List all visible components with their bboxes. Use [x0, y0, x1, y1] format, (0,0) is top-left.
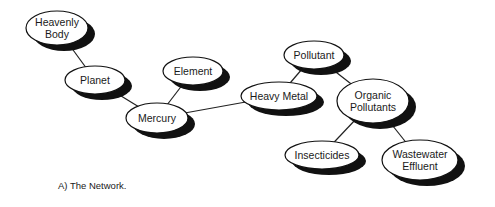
- node-mercury: Mercury: [126, 103, 195, 139]
- node-label: Planet: [80, 74, 110, 86]
- node-label: Mercury: [138, 112, 177, 124]
- node-pollutant: Pollutant: [284, 41, 351, 75]
- figure-caption: A) The Network.: [58, 180, 126, 191]
- node-heavy-metal: Heavy Metal: [241, 82, 324, 116]
- node-organic-pollutants: OrganicPollutants: [337, 79, 416, 129]
- node-label: Heavy Metal: [250, 90, 308, 102]
- node-label: Element: [174, 65, 213, 77]
- node-label: Pollutant: [294, 49, 335, 61]
- node-insecticides: Insecticides: [285, 141, 366, 175]
- node-element: Element: [163, 57, 230, 91]
- node-label: Organic: [355, 89, 392, 101]
- node-label: Heavenly: [35, 16, 80, 28]
- node-label: Wastewater: [392, 148, 448, 160]
- node-wastewater-effluent: WastewaterEffluent: [382, 140, 465, 186]
- node-label: Body: [45, 28, 70, 40]
- node-planet: Planet: [65, 66, 132, 100]
- node-label: Pollutants: [350, 101, 396, 113]
- node-label: Effluent: [402, 160, 437, 172]
- network-diagram: HeavenlyBodyPlanetMercuryElementHeavy Me…: [0, 0, 495, 207]
- node-heavenly-body: HeavenlyBody: [26, 11, 95, 51]
- nodes: HeavenlyBodyPlanetMercuryElementHeavy Me…: [26, 11, 465, 186]
- node-label: Insecticides: [295, 149, 350, 161]
